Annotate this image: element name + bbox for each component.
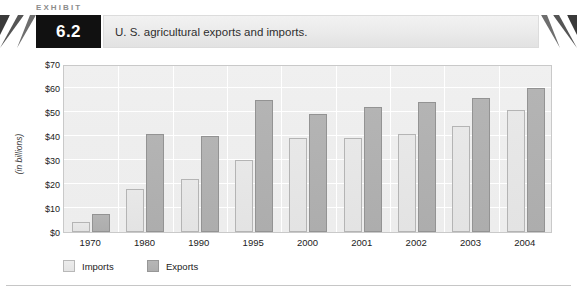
bar-group <box>390 64 444 232</box>
exhibit-number-badge: 6.2 <box>36 15 101 48</box>
legend-swatch-imports <box>63 260 75 272</box>
plot-area <box>63 65 552 233</box>
legend-swatch-exports <box>147 260 159 272</box>
x-tick-label-1990: 1990 <box>172 237 226 248</box>
legend-item-exports[interactable]: Exports <box>147 259 198 273</box>
x-tick-label-1995: 1995 <box>226 237 280 248</box>
y-tick-label: $20 <box>26 180 60 190</box>
bar-group <box>499 64 553 232</box>
legend-label-imports: Imports <box>82 261 114 272</box>
exhibit-title-label: U. S. agricultural exports and imports. <box>115 16 307 49</box>
exhibit-kicker-label: EXHIBIT <box>36 3 82 12</box>
x-tick-label-1980: 1980 <box>117 237 171 248</box>
exhibit-header: EXHIBIT 6.2 U. S. agricultural exports a… <box>0 0 577 49</box>
bar-group <box>118 64 172 232</box>
exhibit-number-label: 6.2 <box>36 15 101 48</box>
bar-imports-2004 <box>507 110 525 232</box>
bar-imports-2001 <box>344 138 362 232</box>
y-tick-label: $30 <box>26 156 60 166</box>
bar-imports-2000 <box>289 138 307 232</box>
bar-group <box>64 64 118 232</box>
bar-chart: (in billions) $0$10$20$30$40$50$60$70 19… <box>0 49 577 281</box>
bar-exports-2002 <box>418 102 436 232</box>
y-axis-ticks: $0$10$20$30$40$50$60$70 <box>22 65 60 233</box>
x-tick-label-1970: 1970 <box>63 237 117 248</box>
decorative-corner-right-icon <box>541 15 577 48</box>
bar-group <box>173 64 227 232</box>
bar-group <box>281 64 335 232</box>
legend-item-imports[interactable]: Imports <box>63 259 114 273</box>
bar-group <box>336 64 390 232</box>
decorative-corner-left-icon <box>0 15 36 48</box>
bar-exports-1990 <box>201 136 219 232</box>
bar-exports-1970 <box>92 214 110 232</box>
legend-label-exports: Exports <box>166 261 198 272</box>
x-tick-label-2004: 2004 <box>498 237 552 248</box>
exhibit-title-bar: U. S. agricultural exports and imports. <box>103 15 539 48</box>
bar-imports-1990 <box>181 179 199 232</box>
bar-exports-2000 <box>309 114 327 232</box>
bar-exports-1995 <box>255 100 273 232</box>
x-axis-ticks: 197019801990199520002001200220032004 <box>63 237 552 253</box>
y-tick-label: $50 <box>26 108 60 118</box>
bar-imports-1995 <box>235 160 253 232</box>
y-tick-label: $60 <box>26 84 60 94</box>
bar-imports-2003 <box>452 126 470 232</box>
bar-imports-2002 <box>398 134 416 232</box>
bar-group <box>444 64 498 232</box>
y-tick-label: $10 <box>26 204 60 214</box>
y-tick-label: $70 <box>26 60 60 70</box>
page-bottom-rule <box>6 285 571 286</box>
x-tick-label-2003: 2003 <box>443 237 497 248</box>
x-tick-label-2000: 2000 <box>280 237 334 248</box>
x-tick-label-2002: 2002 <box>389 237 443 248</box>
bar-imports-1980 <box>126 189 144 232</box>
bar-exports-2003 <box>472 98 490 232</box>
bar-exports-2004 <box>527 88 545 232</box>
y-tick-label: $40 <box>26 132 60 142</box>
bar-exports-2001 <box>364 107 382 232</box>
y-tick-label: $0 <box>26 228 60 238</box>
x-tick-label-2001: 2001 <box>335 237 389 248</box>
bar-imports-1970 <box>72 222 90 232</box>
bar-group <box>227 64 281 232</box>
bar-exports-1980 <box>146 134 164 232</box>
